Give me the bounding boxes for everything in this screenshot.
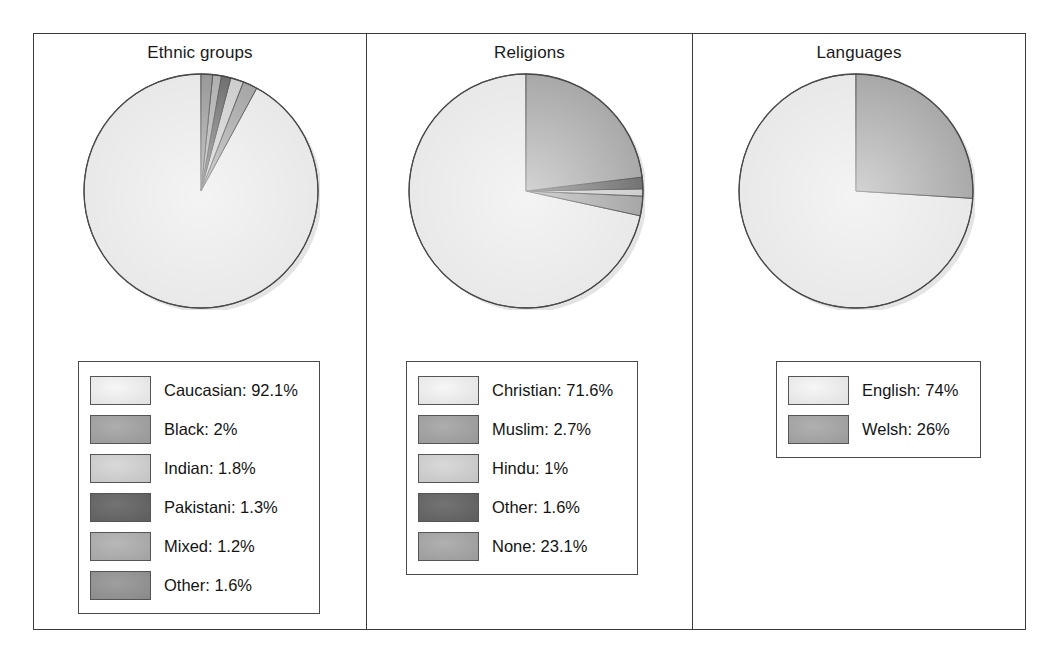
legend-item: Black: 2% [90, 412, 305, 446]
legend-item: Mixed: 1.2% [90, 529, 305, 563]
legend-label-pakistani: Pakistani: 1.3% [164, 498, 278, 517]
legend-item: None: 23.1% [418, 529, 623, 563]
legend-item: Muslim: 2.7% [418, 412, 623, 446]
figure-frame: Ethnic groups Caucasian: 92.1% Black: 2%… [33, 33, 1026, 630]
panel-title-religions: Religions [367, 43, 692, 63]
legend-item: Other: 1.6% [418, 490, 623, 524]
panel-title-ethnic-groups: Ethnic groups [34, 43, 366, 63]
legend-item: Welsh: 26% [788, 412, 966, 446]
panel-ethnic-groups: Ethnic groups Caucasian: 92.1% Black: 2%… [34, 34, 367, 629]
legend-label-other-religion: Other: 1.6% [492, 498, 580, 517]
legend-item: Other: 1.6% [90, 568, 305, 602]
legend-swatch-caucasian [90, 376, 151, 405]
legend-swatch-welsh [788, 415, 849, 444]
legend-item: Indian: 1.8% [90, 451, 305, 485]
pie-svg-religions [407, 72, 645, 310]
pie-svg-languages [737, 72, 975, 310]
legend-swatch-black [90, 415, 151, 444]
legend-swatch-christian [418, 376, 479, 405]
legend-swatch-pakistani [90, 493, 151, 522]
legend-swatch-english [788, 376, 849, 405]
legend-label-welsh: Welsh: 26% [862, 420, 950, 439]
panel-languages: Languages English: 74% Welsh: 26% [693, 34, 1025, 629]
legend-item: Pakistani: 1.3% [90, 490, 305, 524]
panel-title-languages: Languages [693, 43, 1025, 63]
legend-label-muslim: Muslim: 2.7% [492, 420, 591, 439]
panel-religions: Religions Christian: 71.6% Muslim: 2.7% … [367, 34, 693, 629]
pie-chart-religions [407, 72, 645, 310]
legend-swatch-hindu [418, 454, 479, 483]
legend-label-none: None: 23.1% [492, 537, 587, 556]
legend-swatch-none [418, 532, 479, 561]
legend-label-caucasian: Caucasian: 92.1% [164, 381, 298, 400]
legend-item: Christian: 71.6% [418, 373, 623, 407]
pie-slice-none [526, 74, 642, 191]
legend-item: Hindu: 1% [418, 451, 623, 485]
legend-label-english: English: 74% [862, 381, 958, 400]
pie-chart-ethnic-groups [82, 72, 320, 310]
pie-slice-welsh [856, 74, 973, 198]
pie-chart-languages [737, 72, 975, 310]
legend-label-mixed: Mixed: 1.2% [164, 537, 255, 556]
legend-languages: English: 74% Welsh: 26% [776, 361, 981, 458]
legend-swatch-muslim [418, 415, 479, 444]
legend-label-hindu: Hindu: 1% [492, 459, 568, 478]
legend-item: English: 74% [788, 373, 966, 407]
legend-label-black: Black: 2% [164, 420, 237, 439]
legend-religions: Christian: 71.6% Muslim: 2.7% Hindu: 1% … [406, 361, 638, 575]
legend-swatch-indian [90, 454, 151, 483]
legend-swatch-other-religion [418, 493, 479, 522]
legend-swatch-mixed [90, 532, 151, 561]
legend-label-indian: Indian: 1.8% [164, 459, 256, 478]
legend-ethnic-groups: Caucasian: 92.1% Black: 2% Indian: 1.8% … [78, 361, 320, 614]
pie-svg-ethnic-groups [82, 72, 320, 310]
legend-item: Caucasian: 92.1% [90, 373, 305, 407]
legend-swatch-other-ethnic [90, 571, 151, 600]
legend-label-other-ethnic: Other: 1.6% [164, 576, 252, 595]
legend-label-christian: Christian: 71.6% [492, 381, 613, 400]
